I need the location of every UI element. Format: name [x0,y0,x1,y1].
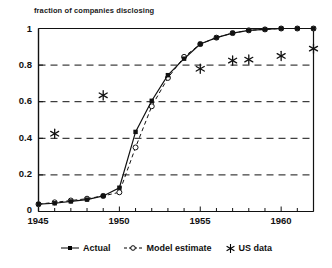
axis-frame [39,29,314,212]
legend-marker-model-estimate [123,243,143,253]
legend-label-us-data: US data [239,243,273,253]
legend-entry-us-data: US data [225,243,273,253]
legend-label-model-estimate: Model estimate [146,243,211,253]
legend-entry-model-estimate: Model estimate [123,243,211,253]
series-actual [36,26,315,206]
legend-label-actual: Actual [83,243,111,253]
plot-canvas [0,0,332,268]
chart-figure: fraction of companies disclosing 1 0.8 0… [0,0,332,268]
legend-marker-us-data [225,243,236,253]
chart-legend: Actual Model estimate [0,243,332,253]
legend-entry-actual: Actual [60,243,111,253]
x-axis-ticks [39,207,314,212]
gridlines [39,65,314,175]
series-model-estimate [36,26,316,207]
legend-marker-actual [60,243,80,253]
